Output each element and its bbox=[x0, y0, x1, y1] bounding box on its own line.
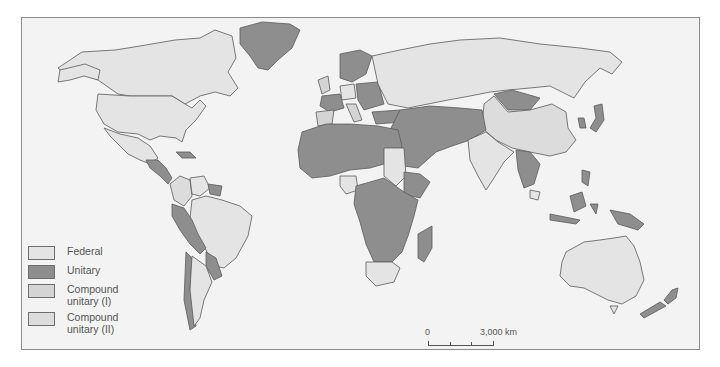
region-colombia bbox=[170, 176, 192, 206]
swatch-compound-unitary-2 bbox=[28, 312, 55, 326]
legend-item-unitary: Unitary bbox=[28, 264, 127, 279]
legend-label: Compound unitary (II) bbox=[67, 311, 127, 335]
region-southeast-asia bbox=[516, 150, 540, 188]
region-uk bbox=[318, 76, 330, 94]
scale-start-label: 0 bbox=[425, 327, 430, 337]
region-japan bbox=[590, 104, 604, 132]
region-australia bbox=[560, 236, 644, 304]
region-madagascar bbox=[418, 226, 432, 262]
region-tasmania bbox=[610, 306, 618, 314]
region-korea bbox=[578, 118, 586, 128]
swatch-unitary bbox=[28, 265, 55, 279]
region-philippines bbox=[582, 170, 590, 186]
scale-end-label: 3,000 km bbox=[480, 327, 517, 337]
region-germany bbox=[340, 84, 356, 100]
legend-item-compound-unitary-1: Compound unitary (I) bbox=[28, 283, 127, 307]
legend-label: Federal bbox=[67, 245, 127, 257]
region-png bbox=[610, 210, 644, 230]
region-venezuela bbox=[190, 176, 210, 196]
region-new-zealand bbox=[640, 288, 678, 318]
map-legend: Federal Unitary Compound unitary (I) Com… bbox=[28, 245, 127, 339]
region-italy bbox=[346, 104, 362, 122]
region-greenland bbox=[240, 22, 300, 70]
legend-item-compound-unitary-2: Compound unitary (II) bbox=[28, 311, 127, 335]
legend-item-federal: Federal bbox=[28, 245, 127, 260]
scale-tick bbox=[450, 342, 451, 345]
region-central-america bbox=[146, 160, 172, 184]
region-guianas bbox=[208, 184, 222, 196]
region-malaysia bbox=[530, 190, 540, 200]
swatch-compound-unitary-1 bbox=[28, 284, 55, 298]
region-south-africa bbox=[366, 262, 400, 286]
region-scandinavia bbox=[340, 50, 372, 82]
legend-label: Unitary bbox=[67, 264, 127, 276]
region-indonesia bbox=[550, 192, 598, 224]
region-france bbox=[320, 94, 344, 112]
swatch-federal bbox=[28, 246, 55, 260]
scale-tick bbox=[471, 342, 472, 345]
scale-bar-line bbox=[428, 341, 494, 346]
legend-label: Compound unitary (I) bbox=[67, 283, 127, 307]
region-caribbean bbox=[176, 152, 196, 158]
region-brazil bbox=[190, 196, 252, 268]
